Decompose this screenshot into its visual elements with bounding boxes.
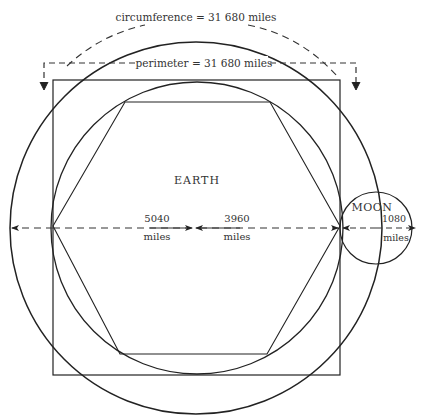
arrow-down-left-icon	[40, 82, 48, 90]
moon-radius-unit: miles	[383, 232, 409, 243]
earth-radius-unit: miles	[224, 231, 251, 242]
outer-distance-value: 5040	[144, 213, 169, 224]
earth-moon-diagram: circumference = 31 680 miles perimeter =…	[0, 0, 428, 419]
perimeter-label: perimeter = 31 680 miles	[136, 57, 273, 69]
earth-label: EARTH	[174, 174, 220, 187]
circumference-arc	[67, 25, 145, 66]
earth-radius-value: 3960	[224, 213, 249, 224]
arrow-down-right-icon	[352, 82, 360, 90]
circumference-label: circumference = 31 680 miles	[116, 11, 277, 23]
moon-radius-value: 1080	[382, 213, 406, 224]
outer-distance-unit: miles	[144, 231, 171, 242]
